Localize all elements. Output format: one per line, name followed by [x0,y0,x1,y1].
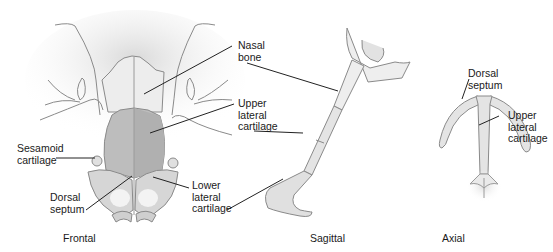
label-upper-lateral-cartilage: Upper lateral cartilage [238,98,278,133]
label-lower-lateral-cartilage: Lower lateral cartilage [192,180,232,215]
caption-frontal: Frontal [63,232,96,244]
label-upper-lateral-cartilage-axial: Upper lateral cartilage [508,110,548,145]
label-nasal-bone: Nasal bone [238,40,265,63]
label-sesamoid-cartilage: Sesamoid cartilage [17,143,64,166]
caption-sagittal: Sagittal [310,232,345,244]
label-dorsal-septum-frontal: Dorsal septum [50,192,84,215]
caption-axial: Axial [442,232,465,244]
sagittal-view [265,28,410,217]
label-dorsal-septum-axial: Dorsal septum [468,68,502,91]
